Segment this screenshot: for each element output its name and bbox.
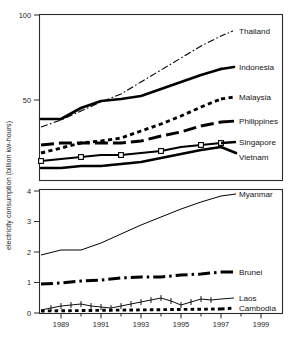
lower-ylabel-0: 0	[27, 309, 31, 318]
xlabel-1989: 1989	[53, 320, 69, 329]
series-label-malaysia: Malaysia	[239, 93, 271, 102]
xlabel-1999: 1999	[253, 320, 269, 329]
series-label-cambodia: Cambodia	[239, 304, 276, 313]
x-axis: 1989 1991 1993 1995 1997 1999	[53, 314, 269, 330]
y-axis-title: electricity consumption (billion kw-hour…	[4, 121, 13, 250]
lower-ylabel-2: 2	[27, 248, 31, 257]
leader-cambodia	[221, 308, 234, 309]
leader-philippines	[221, 121, 236, 122]
leader-laos	[221, 298, 234, 299]
lower-ylabel-1: 1	[27, 278, 31, 287]
leader-myanmar	[221, 194, 236, 196]
series-label-myanmar: Myanmar	[239, 190, 273, 199]
upper-ylabel-100: 100	[19, 11, 31, 20]
series-line-cambodia	[41, 309, 221, 311]
series-label-vietnam: Vietnam	[239, 153, 269, 162]
chart-svg: electricity consumption (billion kw-hour…	[0, 0, 296, 339]
series-label-indonesia: Indonesia	[239, 63, 275, 72]
xlabel-1995: 1995	[173, 320, 189, 329]
series-label-laos: Laos	[239, 294, 257, 303]
leader-thailand	[221, 31, 233, 36]
upper-panel: 100 50	[19, 11, 283, 181]
leader-singapore	[221, 142, 236, 143]
leader-indonesia	[221, 67, 234, 69]
leader-malaysia	[221, 97, 234, 99]
leader-vietnam	[221, 147, 236, 153]
series-label-brunei: Brunei	[239, 268, 263, 277]
series-line-brunei	[41, 272, 221, 284]
lower-ylabel-3: 3	[27, 217, 31, 226]
xlabel-1991: 1991	[93, 320, 109, 329]
series-line-myanmar	[41, 196, 221, 255]
series-label-thailand: Thailand	[239, 27, 270, 36]
series-label-philippines: Philippines	[239, 117, 278, 126]
series-line-thailand	[41, 36, 221, 127]
upper-ylabel-50: 50	[23, 96, 31, 105]
chart-figure: electricity consumption (billion kw-hour…	[0, 0, 296, 339]
xlabel-1997: 1997	[213, 320, 229, 329]
series-label-singapore: Singapore	[239, 138, 276, 147]
xlabel-1993: 1993	[133, 320, 149, 329]
series-line-indonesia	[41, 69, 221, 119]
lower-panel: 4 3 2 1 0	[27, 187, 283, 329]
lower-ylabel-4: 4	[27, 187, 31, 196]
